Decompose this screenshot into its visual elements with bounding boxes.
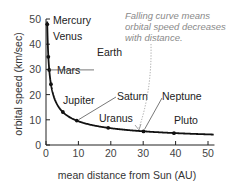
point-label-uranus: Uranus bbox=[99, 112, 133, 124]
annotation-line: Falling curve means bbox=[125, 10, 210, 21]
leader-line-neptune bbox=[145, 98, 162, 129]
point-label-mercury: Mercury bbox=[53, 14, 92, 26]
point-label-earth: Earth bbox=[97, 46, 122, 58]
data-point-venus bbox=[46, 55, 50, 59]
x-tick-label: 0 bbox=[43, 147, 49, 159]
x-tick-label: 10 bbox=[73, 147, 85, 159]
y-tick-label: 20 bbox=[29, 89, 41, 101]
point-label-neptune: Neptune bbox=[162, 90, 202, 102]
annotation-line: orbital speed decreases bbox=[125, 21, 226, 32]
point-label-saturn: Saturn bbox=[117, 90, 148, 102]
x-tick-label: 50 bbox=[202, 147, 214, 159]
data-point-mars bbox=[49, 82, 53, 86]
x-tick-label: 30 bbox=[137, 147, 149, 159]
y-axis-label: orbital speed (km/sec) bbox=[12, 32, 24, 135]
y-tick-label: 40 bbox=[29, 38, 41, 50]
annotation: Falling curve meansorbital speed decreas… bbox=[125, 10, 226, 130]
point-label-mars: Mars bbox=[57, 64, 80, 76]
y-tick-label: 30 bbox=[29, 63, 41, 75]
annotation-arrow bbox=[139, 44, 151, 128]
data-point-mercury bbox=[45, 22, 49, 26]
chart-canvas: 0102030405001020304050 MercuryVenusEarth… bbox=[0, 0, 226, 185]
data-point-saturn bbox=[75, 119, 79, 123]
data-point-jupiter bbox=[61, 110, 65, 114]
data-point-uranus bbox=[106, 126, 110, 130]
annotation-line: with distance. bbox=[125, 32, 183, 43]
data-point-pluto bbox=[172, 131, 176, 135]
x-axis-label: mean distance from Sun (AU) bbox=[58, 169, 196, 181]
point-label-venus: Venus bbox=[53, 30, 82, 42]
orbital-speed-chart: 0102030405001020304050 MercuryVenusEarth… bbox=[0, 0, 226, 185]
x-tick-label: 40 bbox=[170, 147, 182, 159]
y-tick-label: 10 bbox=[29, 114, 41, 126]
x-tick-label: 20 bbox=[105, 147, 117, 159]
data-point-neptune bbox=[142, 129, 146, 133]
point-label-pluto: Pluto bbox=[174, 114, 198, 126]
y-tick-label: 50 bbox=[29, 13, 41, 25]
y-tick-label: 0 bbox=[35, 139, 41, 151]
point-label-jupiter: Jupiter bbox=[63, 94, 95, 106]
